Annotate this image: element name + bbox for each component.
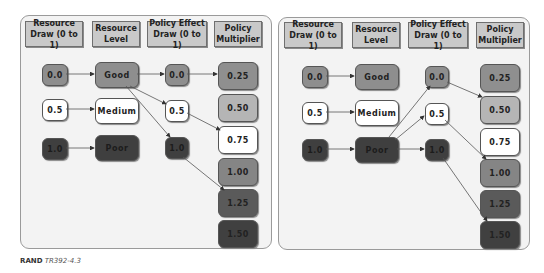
header-resource-level-right: Resource Level (352, 22, 400, 48)
left-multiplier-025: 0.25 (218, 62, 258, 90)
header-policy-effect-draw: Policy Effect Draw (0 to 1) (147, 21, 207, 47)
right-policy-draw-0: 0.0 (425, 66, 449, 88)
left-policy-draw-1: 1.0 (165, 137, 189, 159)
left-policy-draw-05: 0.5 (165, 100, 189, 122)
left-multiplier-050: 0.50 (218, 94, 258, 122)
right-policy-draw-05: 0.5 (425, 103, 449, 125)
right-multiplier-025: 0.25 (480, 64, 520, 92)
header-policy-multiplier-right: Policy Multiplier (476, 22, 524, 48)
right-multiplier-150: 1.50 (480, 221, 520, 249)
right-level-medium: Medium (355, 100, 399, 126)
left-draw-05: 0.5 (42, 99, 68, 121)
right-draw-1: 1.0 (302, 139, 328, 161)
left-multiplier-125: 1.25 (218, 189, 258, 217)
right-policy-draw-1: 1.0 (425, 139, 449, 161)
right-multiplier-050: 0.50 (480, 96, 520, 124)
header-resource-draw: Resource Draw (0 to 1) (25, 21, 83, 47)
left-multiplier-100: 1.00 (218, 158, 258, 186)
header-resource-draw-right: Resource Draw (0 to 1) (284, 22, 342, 48)
left-multiplier-150: 1.50 (218, 220, 258, 248)
right-multiplier-125: 1.25 (480, 190, 520, 218)
figure-caption: RAND TR392-4.3 (20, 257, 81, 265)
left-policy-draw-0: 0.0 (165, 64, 189, 86)
caption-org: RAND (20, 257, 42, 265)
left-multiplier-075: 0.75 (218, 126, 258, 154)
right-level-good: Good (355, 64, 399, 90)
right-draw-05: 0.5 (302, 102, 328, 124)
right-multiplier-075: 0.75 (480, 128, 520, 156)
left-level-poor: Poor (95, 135, 139, 161)
left-draw-1: 1.0 (42, 138, 68, 160)
right-level-poor: Poor (355, 137, 399, 163)
left-level-medium: Medium (95, 98, 139, 124)
header-policy-multiplier: Policy Multiplier (214, 21, 262, 47)
left-level-good: Good (95, 62, 139, 88)
header-resource-level: Resource Level (92, 21, 140, 47)
right-multiplier-100: 1.00 (480, 159, 520, 187)
header-policy-effect-draw-right: Policy Effect Draw (0 to 1) (408, 22, 468, 48)
left-draw-0: 0.0 (42, 64, 68, 86)
caption-id: TR392-4.3 (45, 257, 81, 265)
right-draw-0: 0.0 (302, 66, 328, 88)
